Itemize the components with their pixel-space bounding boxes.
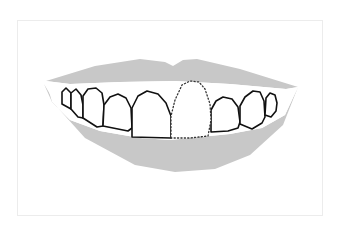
- tooth-4: [103, 94, 132, 131]
- smile-illustration: [0, 0, 343, 234]
